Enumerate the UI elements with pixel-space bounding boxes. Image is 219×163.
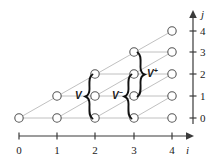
lattice-canvas — [0, 0, 219, 163]
node-1-1 — [53, 92, 61, 100]
brace-label-v-minus: V− — [112, 91, 123, 101]
node-4-4 — [168, 27, 176, 35]
node-4-0 — [168, 114, 176, 122]
brace-label-v-minus-sup: − — [119, 89, 123, 96]
node-1-0 — [53, 114, 61, 122]
y-tick-label-0: 0 — [200, 113, 212, 124]
x-tick-label-3: 3 — [124, 145, 144, 156]
y-tick-label-1: 1 — [200, 91, 212, 102]
y-axis-label: j — [201, 9, 204, 20]
y-tick-label-3: 3 — [200, 47, 212, 58]
node-4-2 — [168, 70, 176, 78]
x-axis-arrowhead — [186, 132, 194, 140]
grid-diagonal-1 — [57, 52, 172, 118]
brace-label-v-text: V — [75, 90, 82, 101]
brace-group — [86, 53, 145, 119]
y-tick-label-2: 2 — [200, 69, 212, 80]
x-tick-label-1: 1 — [47, 145, 67, 156]
node-4-3 — [168, 48, 176, 56]
node-4-1 — [168, 92, 176, 100]
brace-label-v-plus-sup: + — [154, 67, 158, 74]
brace-label-v: V — [75, 91, 82, 101]
grid-diagonal-3 — [134, 96, 172, 118]
brace-label-v-plus-base: V — [147, 68, 154, 79]
lattice-diagram: 0 1 2 3 4 i 0 1 2 3 4 j V V− V+ — [0, 0, 219, 163]
y-tick-label-4: 4 — [200, 26, 212, 37]
x-tick-label-2: 2 — [85, 145, 105, 156]
x-axis-label: i — [186, 145, 189, 156]
brace-label-v-minus-base: V — [112, 90, 119, 101]
y-axis-arrowhead — [189, 10, 197, 18]
x-tick-label-4: 4 — [162, 145, 182, 156]
node-0-0 — [15, 114, 23, 122]
node-2-1 — [91, 92, 99, 100]
brace-label-v-plus: V+ — [147, 69, 158, 79]
x-tick-label-0: 0 — [9, 145, 29, 156]
